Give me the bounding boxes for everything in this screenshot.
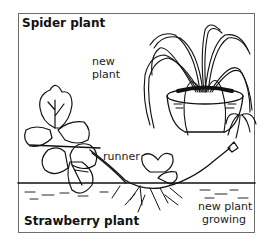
label-new-plant-growing-line1: new plant — [198, 200, 252, 213]
new-plantlet — [142, 153, 177, 184]
spider-plant-leaves — [144, 25, 256, 138]
label-new-plant-line1: new — [92, 55, 115, 68]
roots — [112, 186, 182, 212]
title-strawberry-plant: Strawberry plant — [24, 214, 139, 228]
label-new-plant-line2: plant — [92, 68, 120, 81]
label-new-plant-growing-line2: growing — [202, 213, 246, 226]
strawberry-leaves — [25, 85, 100, 193]
label-runner: runner — [103, 150, 140, 163]
title-spider-plant: Spider plant — [22, 16, 105, 30]
